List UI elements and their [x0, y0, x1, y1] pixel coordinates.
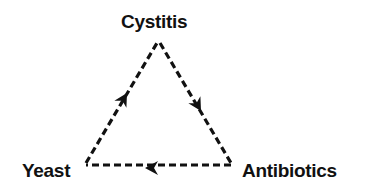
arrow-head-icon [114, 89, 133, 107]
edge-cystitis-to-antibiotics [160, 43, 231, 163]
cycle-diagram [0, 0, 378, 195]
edge-yeast-to-cystitis [86, 43, 157, 163]
arrow-head-icon [145, 161, 158, 175]
arrow-head-icon [188, 96, 207, 114]
